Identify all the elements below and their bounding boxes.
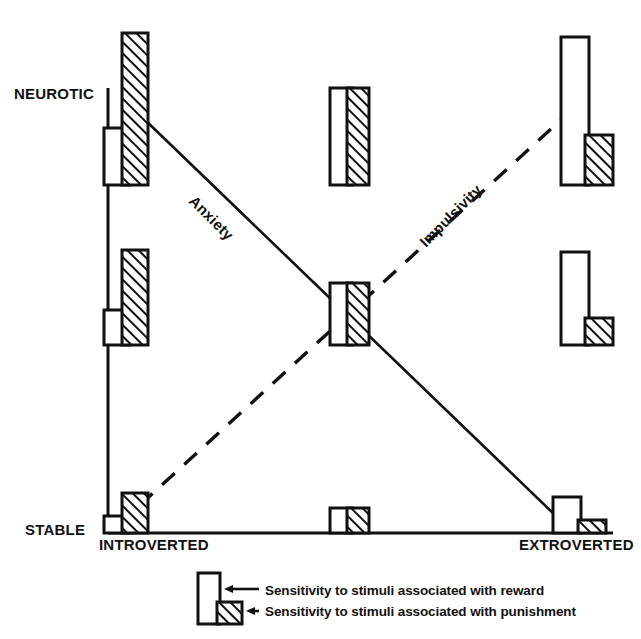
bar-punishment (122, 493, 148, 533)
bar-punishment (347, 283, 369, 345)
bar-group-stable-introverted (104, 493, 148, 533)
axis-label-extroverted: EXTROVERTED (519, 536, 634, 553)
axis-label-stable: STABLE (25, 521, 85, 538)
bar-group-neurotic-extroverted (561, 37, 613, 185)
chart-figure: NEUROTIC STABLE INTROVERTED EXTROVERTED … (0, 0, 641, 639)
legend-arrow-reward-icon (224, 585, 259, 593)
bar-group-stable-extroverted (553, 497, 606, 533)
legend-swatch-punishment (217, 602, 242, 624)
bar-group-neurotic-introverted (104, 33, 148, 185)
bar-punishment (122, 250, 148, 345)
bar-group-middle-extroverted (561, 252, 613, 345)
axis-label-introverted: INTROVERTED (99, 536, 209, 553)
bar-group-middle-introverted (104, 250, 148, 345)
legend-punishment-bar (217, 602, 242, 624)
bar-group-neurotic-middle (330, 88, 369, 185)
bar-punishment (578, 520, 606, 533)
legend-label-punishment: Sensitivity to stimuli associated with p… (265, 604, 576, 619)
bar-punishment (585, 135, 613, 185)
axis-label-neurotic: NEUROTIC (14, 85, 94, 102)
bar-group-stable-middle (330, 508, 369, 533)
bar-punishment (347, 508, 369, 533)
legend-arrow-punishment-icon (246, 607, 259, 615)
bar-punishment (122, 33, 148, 185)
bar-punishment (585, 318, 613, 345)
legend-label-reward: Sensitivity to stimuli associated with r… (265, 583, 544, 598)
bar-group-middle-middle (330, 283, 369, 345)
bar-punishment (347, 88, 369, 185)
